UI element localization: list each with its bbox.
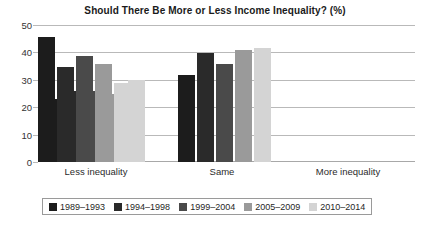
bar-same-1 (178, 75, 195, 162)
category-label-more: More inequality (316, 166, 380, 177)
bar-more-4 (95, 64, 112, 162)
bar-more-5 (114, 83, 131, 162)
legend-swatch-icon-5 (309, 203, 317, 211)
bar-same-3 (216, 64, 233, 162)
bar-more-2 (57, 67, 74, 162)
y-tick-label-50: 50 (6, 20, 32, 31)
legend-label-5: 2010–2014 (320, 202, 365, 212)
legend-swatch-icon-2 (114, 203, 122, 211)
y-tick-mark-0 (33, 162, 38, 163)
legend-swatch-icon-4 (244, 203, 252, 211)
bar-more-1 (38, 37, 55, 162)
legend-item-5[interactable]: 2010–2014 (309, 202, 365, 212)
legend-swatch-icon-3 (179, 203, 187, 211)
legend-item-3[interactable]: 1999–2004 (179, 202, 235, 212)
bar-same-5 (254, 48, 271, 162)
chart-title: Should There Be More or Less Income Ineq… (0, 5, 430, 16)
chart-legend: 1989–1993 1994–1998 1999–2004 2005–2009 … (42, 198, 372, 215)
legend-swatch-icon-1 (49, 203, 57, 211)
plot-area (38, 25, 415, 162)
bar-same-2 (197, 53, 214, 162)
y-tick-label-10: 10 (6, 129, 32, 140)
bar-group-same (178, 25, 273, 162)
legend-label-1: 1989–1993 (60, 202, 105, 212)
bar-group-more-inequality (38, 25, 133, 162)
bar-more-3 (76, 56, 93, 162)
y-axis: 0 10 20 30 40 50 (0, 25, 32, 162)
legend-item-2[interactable]: 1994–1998 (114, 202, 170, 212)
legend-item-1[interactable]: 1989–1993 (49, 202, 105, 212)
legend-item-4[interactable]: 2005–2009 (244, 202, 300, 212)
bar-same-4 (235, 50, 252, 162)
y-tick-label-40: 40 (6, 47, 32, 58)
legend-label-3: 1999–2004 (190, 202, 235, 212)
legend-label-2: 1994–1998 (125, 202, 170, 212)
legend-label-4: 2005–2009 (255, 202, 300, 212)
category-label-less: Less inequality (65, 166, 128, 177)
y-tick-label-0: 0 (6, 157, 32, 168)
bar-chart: Should There Be More or Less Income Ineq… (0, 0, 430, 227)
y-tick-label-30: 30 (6, 74, 32, 85)
y-tick-label-20: 20 (6, 102, 32, 113)
category-label-same: Same (210, 166, 235, 177)
